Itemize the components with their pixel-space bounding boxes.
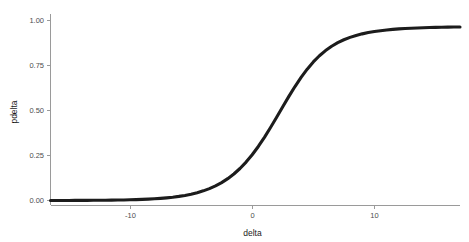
y-axis-title: pdelta xyxy=(9,100,19,123)
x-tick-label-0: -10 xyxy=(125,211,136,220)
x-axis-title: delta xyxy=(243,228,262,238)
x-tick-label-1: 0 xyxy=(250,211,254,220)
x-tick-label-2: 10 xyxy=(370,211,378,220)
plot-area: 0.00 0.25 0.50 0.75 1.00 -10 0 10 delta … xyxy=(0,0,469,242)
y-tick-label-0: 0.00 xyxy=(29,196,44,205)
y-tick-label-4: 1.00 xyxy=(29,16,44,25)
y-tick-label-2: 0.50 xyxy=(29,106,44,115)
chart-figure: 0.00 0.25 0.50 0.75 1.00 -10 0 10 delta … xyxy=(0,0,469,242)
y-tick-label-1: 0.25 xyxy=(29,151,44,160)
y-tick-label-3: 0.75 xyxy=(29,61,44,70)
